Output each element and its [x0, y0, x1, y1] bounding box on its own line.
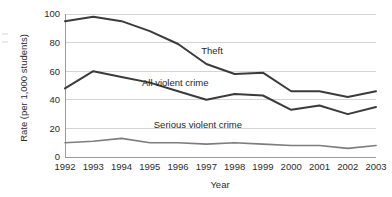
x-tick-label: 1994 [111, 161, 132, 172]
y-tick-label: 60 [49, 66, 60, 77]
x-tick-label: 2003 [365, 161, 386, 172]
y-tick-label: 100 [44, 8, 60, 19]
y-tick-label: 80 [49, 37, 60, 48]
series-label-theft: Theft [201, 45, 223, 56]
line-chart: 020406080100 199219931994199519961997199… [0, 0, 392, 197]
y-axis-ticks: 020406080100 [44, 8, 60, 162]
series-label-all-violent-crime: All violent crime [142, 77, 209, 88]
x-tick-label: 1997 [196, 161, 217, 172]
x-tick-label: 2000 [281, 161, 302, 172]
chart-canvas: 020406080100 199219931994199519961997199… [0, 0, 392, 197]
gridlines [65, 14, 376, 128]
x-tick-label: 1995 [139, 161, 160, 172]
series-line-serious-violent-crime [65, 138, 376, 148]
x-tick-label: 1999 [252, 161, 273, 172]
y-tick-label: 20 [49, 123, 60, 134]
x-tick-label: 1992 [54, 161, 75, 172]
series-label-serious-violent-crime: Serious violent crime [154, 119, 242, 130]
x-tick-label: 2001 [309, 161, 330, 172]
x-axis-ticks: 1992199319941995199619971998199920002001… [54, 161, 386, 172]
y-tick-label: 40 [49, 94, 60, 105]
x-axis-title: Year [210, 179, 229, 190]
edge-marks [2, 34, 8, 42]
x-tick-label: 1996 [168, 161, 189, 172]
series-line-theft [65, 17, 376, 97]
y-axis-title: Rate (per 1,000 students) [18, 34, 29, 142]
x-tick-label: 1998 [224, 161, 245, 172]
series-annotations: TheftAll violent crimeSerious violent cr… [142, 45, 242, 130]
x-tick-label: 2002 [337, 161, 358, 172]
x-tick-label: 1993 [83, 161, 104, 172]
